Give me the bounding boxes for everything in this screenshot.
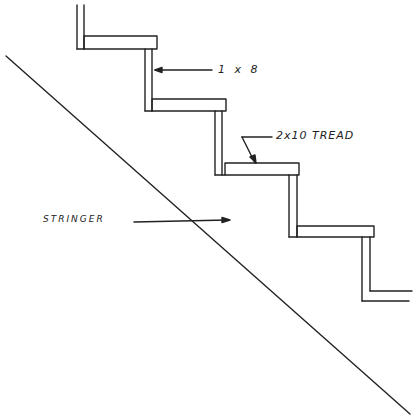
tread-label: 2x10 TREAD	[276, 129, 354, 142]
stringer-label: STRINGER	[43, 214, 105, 224]
tread-leader	[242, 137, 272, 163]
stringer-leader	[134, 218, 230, 223]
step-1	[77, 5, 157, 49]
step-4	[289, 175, 374, 237]
riser-leader	[155, 68, 212, 73]
step-3	[215, 111, 299, 175]
stringer-line	[6, 56, 410, 414]
step-2	[145, 49, 226, 111]
step-5	[362, 237, 412, 301]
stair-diagram	[0, 0, 415, 417]
riser-label: 1 x 8	[218, 63, 261, 76]
